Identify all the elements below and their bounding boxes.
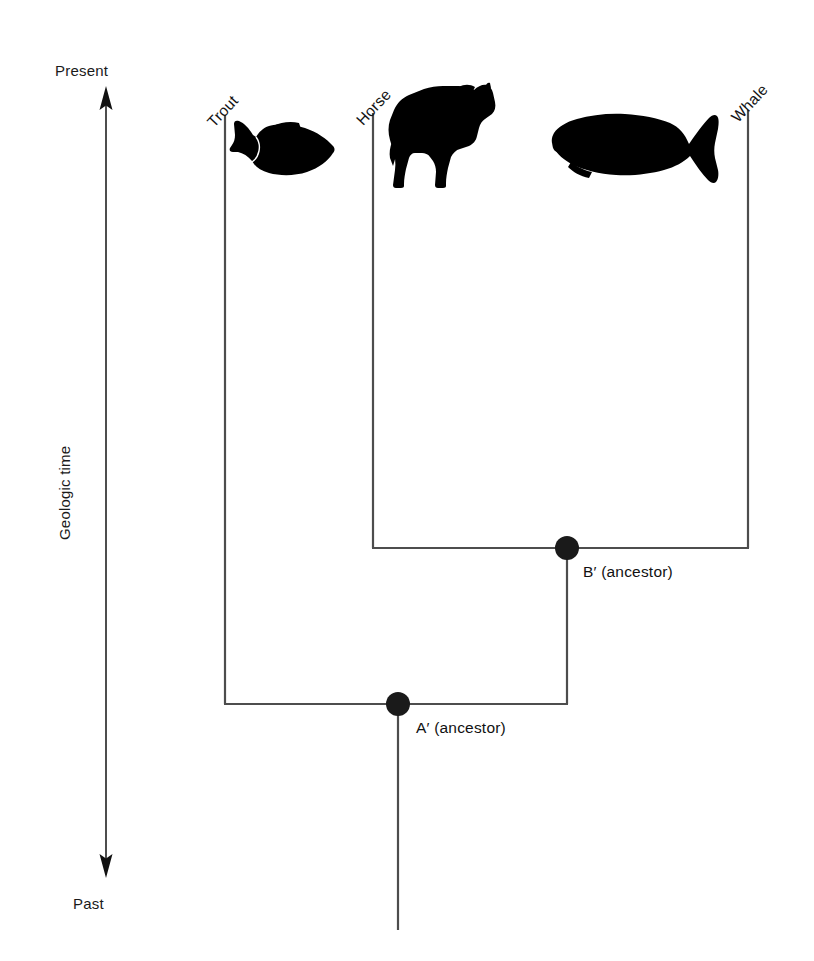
axis-label-present: Present	[55, 62, 108, 79]
whale-silhouette-icon	[552, 114, 719, 183]
axis-label-geologic-time: Geologic time	[56, 446, 73, 540]
trout-silhouette-icon	[230, 121, 335, 176]
horse-silhouette-icon	[389, 83, 496, 188]
node-b-dot[interactable]	[555, 536, 579, 560]
node-a-dot[interactable]	[386, 692, 410, 716]
phylogenetic-tree-figure: Present Past Geologic time Trout Horse W…	[0, 0, 814, 961]
tree-diagram-canvas	[0, 0, 814, 961]
horse-body-path	[389, 85, 496, 188]
node-label-a-ancestor: A′ (ancestor)	[416, 719, 506, 737]
node-label-b-ancestor: B′ (ancestor)	[583, 563, 673, 581]
tree-branches	[224, 110, 749, 930]
geologic-time-axis	[100, 86, 113, 878]
axis-label-past: Past	[73, 895, 104, 912]
